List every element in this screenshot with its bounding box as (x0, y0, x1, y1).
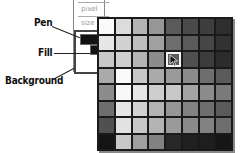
palette-swatch[interactable] (99, 52, 114, 67)
palette-swatch[interactable] (200, 19, 215, 34)
background-label: Background (5, 74, 63, 87)
color-palette-grid (97, 17, 233, 151)
palette-swatch[interactable] (149, 36, 164, 51)
palette-swatch[interactable] (183, 36, 198, 51)
palette-swatch[interactable] (149, 19, 164, 34)
palette-swatch[interactable] (216, 36, 231, 51)
palette-swatch[interactable] (133, 69, 148, 84)
palette-swatch[interactable] (149, 52, 164, 67)
palette-swatch[interactable] (200, 135, 215, 150)
palette-swatch[interactable] (216, 52, 231, 67)
palette-swatch[interactable] (216, 135, 231, 150)
palette-swatch[interactable] (166, 102, 181, 117)
palette-swatch[interactable] (183, 52, 198, 67)
palette-swatch[interactable] (149, 135, 164, 150)
palette-swatch[interactable] (99, 36, 114, 51)
palette-swatch[interactable] (99, 135, 114, 150)
palette-swatch[interactable] (116, 52, 131, 67)
palette-swatch[interactable] (216, 118, 231, 133)
palette-swatch[interactable] (183, 102, 198, 117)
palette-swatch[interactable] (116, 36, 131, 51)
palette-swatch[interactable] (216, 85, 231, 100)
palette-swatch[interactable] (166, 19, 181, 34)
palette-swatch[interactable] (200, 69, 215, 84)
palette-swatch[interactable] (166, 135, 181, 150)
palette-swatch[interactable] (200, 118, 215, 133)
palette-swatch[interactable] (216, 102, 231, 117)
palette-swatch[interactable] (133, 102, 148, 117)
palette-swatch[interactable] (200, 52, 215, 67)
fill-label: Fill (38, 46, 52, 59)
palette-swatch[interactable] (166, 69, 181, 84)
palette-swatch[interactable] (99, 85, 114, 100)
palette-swatch[interactable] (99, 118, 114, 133)
palette-swatch[interactable] (99, 102, 114, 117)
palette-swatch[interactable] (99, 19, 114, 34)
palette-swatch[interactable] (149, 69, 164, 84)
palette-swatch[interactable] (116, 118, 131, 133)
palette-swatch[interactable] (200, 102, 215, 117)
palette-swatch[interactable] (183, 85, 198, 100)
palette-swatch[interactable] (133, 85, 148, 100)
palette-swatch[interactable] (149, 102, 164, 117)
palette-swatch[interactable] (200, 85, 215, 100)
pen-label: Pen (34, 16, 52, 29)
palette-swatch[interactable] (216, 69, 231, 84)
palette-swatch[interactable] (133, 19, 148, 34)
palette-swatch[interactable] (116, 135, 131, 150)
palette-swatch[interactable] (183, 69, 198, 84)
palette-swatch[interactable] (183, 135, 198, 150)
palette-swatch[interactable] (133, 135, 148, 150)
palette-swatch[interactable] (216, 19, 231, 34)
fill-leader-line (54, 53, 90, 54)
palette-swatch[interactable] (116, 85, 131, 100)
palette-swatch[interactable] (99, 69, 114, 84)
palette-swatch[interactable] (166, 36, 181, 51)
palette-swatch[interactable] (116, 19, 131, 34)
palette-swatch[interactable] (116, 69, 131, 84)
palette-swatch[interactable] (183, 19, 198, 34)
arrow-cursor-icon (169, 54, 181, 67)
palette-swatch[interactable] (133, 118, 148, 133)
palette-swatch[interactable] (166, 118, 181, 133)
pixel-field[interactable]: pixel (78, 2, 109, 15)
palette-swatch[interactable] (133, 52, 148, 67)
palette-swatch[interactable] (149, 118, 164, 133)
palette-swatch[interactable] (200, 36, 215, 51)
palette-swatch[interactable] (166, 85, 181, 100)
palette-swatch[interactable] (183, 118, 198, 133)
palette-swatch[interactable] (116, 102, 131, 117)
palette-swatch-selected[interactable] (166, 52, 181, 67)
palette-swatch[interactable] (149, 85, 164, 100)
palette-swatch[interactable] (133, 36, 148, 51)
